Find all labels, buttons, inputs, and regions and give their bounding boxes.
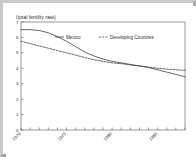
y-tick-label: 7 xyxy=(16,20,19,25)
legend-label-developing-countries: Developing Countries xyxy=(110,35,155,40)
line-chart-svg: 012345671970197519801985 MexicoDevelopin… xyxy=(0,0,196,157)
axis-group: 012345671970197519801985 xyxy=(11,20,185,142)
y-tick-label: 5 xyxy=(16,50,19,55)
x-tick-label: 1985 xyxy=(148,131,159,142)
legend-group: MexicoDeveloping Countries xyxy=(55,35,155,40)
x-tick-label: 1970 xyxy=(11,131,22,142)
x-tick-label: 1980 xyxy=(102,131,113,142)
chart-screenshot: (total fertility rate) 01234567197019751… xyxy=(0,0,196,157)
x-tick-label: 1975 xyxy=(57,131,68,142)
plot-area: 012345671970197519801985 MexicoDevelopin… xyxy=(0,0,196,157)
y-tick-label: 3 xyxy=(16,81,19,86)
y-tick-label: 6 xyxy=(16,35,19,40)
y-tick-label: 4 xyxy=(16,66,19,71)
y-tick-label: 1 xyxy=(16,112,19,117)
y-tick-label: 2 xyxy=(16,97,19,102)
legend-label-mexico: Mexico xyxy=(66,35,81,40)
series-line-developing-countries xyxy=(21,41,185,70)
